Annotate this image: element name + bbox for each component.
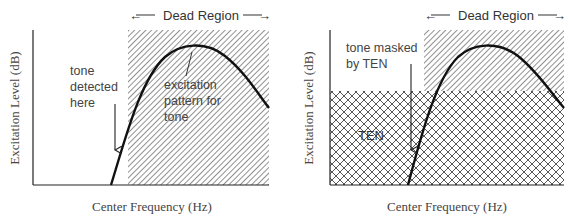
tone-detected-label: tone detected here xyxy=(70,64,121,110)
y-axis-label: Excitation Level (dB) xyxy=(7,51,22,164)
dead-region-arrow-right: → xyxy=(553,8,566,23)
y-axis-label: Excitation Level (dB) xyxy=(301,51,316,164)
dead-region-arrow-right: → xyxy=(258,8,271,23)
dead-region-label: Dead Region xyxy=(163,8,239,23)
dead-region-diagram: ← Dead Region → tone detected here excit… xyxy=(0,0,570,223)
x-axis-label: Center Frequency (Hz) xyxy=(387,199,507,214)
ten-label: TEN xyxy=(358,128,384,143)
dead-region-arrow-left: ← xyxy=(424,8,437,23)
right-panel: ← Dead Region → tone masked by TEN TEN E… xyxy=(301,8,566,214)
x-axis-label: Center Frequency (Hz) xyxy=(92,199,212,214)
tone-masked-label: tone masked by TEN xyxy=(346,41,421,71)
dead-region-label: Dead Region xyxy=(458,8,534,23)
left-panel: ← Dead Region → tone detected here excit… xyxy=(7,8,271,214)
